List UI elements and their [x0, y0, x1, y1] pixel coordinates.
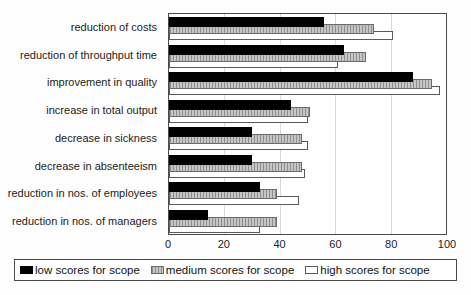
- bar-group-1: [169, 42, 446, 70]
- category-label-1: reduction of throughput time: [0, 41, 162, 69]
- bar-group-2: [169, 69, 446, 97]
- bar-low-scores-5: [169, 155, 252, 165]
- bar-low-scores-4: [169, 127, 252, 137]
- value-axis: 020406080100: [168, 238, 447, 252]
- xtick-label-20: 20: [218, 238, 230, 250]
- legend: low scores for scopemedium scores for sc…: [14, 259, 457, 281]
- legend-label-medium: medium scores for scope: [166, 264, 294, 276]
- legend-item-medium: medium scores for scope: [151, 264, 294, 276]
- bar-low-scores-0: [169, 17, 324, 27]
- category-label-5: decrease in absenteeism: [0, 152, 162, 180]
- xtick-label-0: 0: [165, 238, 171, 250]
- xtick-label-40: 40: [273, 238, 285, 250]
- legend-item-high: high scores for scope: [305, 264, 429, 276]
- bar-group-7: [169, 207, 446, 235]
- bar-chart: reduction of costsreduction of throughpu…: [0, 0, 471, 295]
- bar-low-scores-6: [169, 182, 260, 192]
- legend-swatch-high: [305, 266, 318, 274]
- plot-area: [168, 13, 447, 235]
- category-label-4: decrease in sickness: [0, 124, 162, 152]
- legend-item-low: low scores for scope: [20, 264, 140, 276]
- bar-low-scores-2: [169, 72, 413, 82]
- bar-group-5: [169, 152, 446, 180]
- bar-low-scores-1: [169, 45, 344, 55]
- bar-group-6: [169, 179, 446, 207]
- bar-group-4: [169, 124, 446, 152]
- category-label-6: reduction in nos. of employees: [0, 180, 162, 208]
- bar-low-scores-7: [169, 210, 208, 220]
- xtick-label-60: 60: [329, 238, 341, 250]
- category-label-0: reduction of costs: [0, 13, 162, 41]
- legend-swatch-medium: [151, 266, 164, 274]
- category-axis: reduction of costsreduction of throughpu…: [0, 13, 162, 235]
- category-label-7: reduction in nos. of managers: [0, 207, 162, 235]
- legend-swatch-low: [20, 266, 33, 274]
- category-label-3: increase in total output: [0, 96, 162, 124]
- bar-low-scores-3: [169, 100, 291, 110]
- legend-label-low: low scores for scope: [35, 264, 140, 276]
- bar-group-0: [169, 14, 446, 42]
- bar-group-3: [169, 97, 446, 125]
- xtick-label-80: 80: [385, 238, 397, 250]
- legend-label-high: high scores for scope: [320, 264, 429, 276]
- category-label-2: improvement in quality: [0, 69, 162, 97]
- xtick-label-100: 100: [438, 238, 456, 250]
